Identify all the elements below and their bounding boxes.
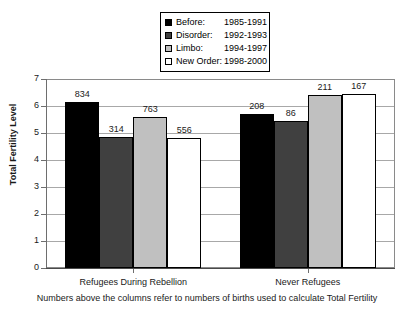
y-axis-line (46, 79, 47, 269)
x-axis-tick (133, 269, 134, 273)
bar (99, 137, 133, 268)
legend: Before:1985-1991Disorder:1992-1993Limbo:… (160, 12, 270, 72)
legend-item: New Order:1998-2000 (165, 55, 265, 68)
bar (167, 138, 201, 268)
legend-item-years: 1985-1991 (224, 18, 267, 27)
bar (274, 121, 308, 268)
bar (133, 117, 167, 268)
legend-item: Disorder:1992-1993 (165, 29, 265, 42)
y-axis-tick (41, 187, 46, 188)
y-axis-tick-label-wrap: 5 (0, 128, 39, 137)
bar (240, 114, 274, 268)
x-axis-line (46, 268, 395, 269)
y-axis-tick-label: 0 (3, 263, 39, 272)
y-axis-tick-label-wrap: 4 (0, 155, 39, 164)
chart-caption: Numbers above the columns refer to numbe… (0, 293, 414, 304)
bar-value-label: 167 (334, 82, 384, 91)
bar-value-label: 763 (125, 105, 175, 114)
bar (342, 94, 376, 268)
y-axis-tick (41, 133, 46, 134)
y-axis-tick-label-wrap: 2 (0, 209, 39, 218)
y-axis-tick-label-wrap: 1 (0, 236, 39, 245)
legend-swatch (165, 32, 172, 39)
y-axis-tick-label: 1 (3, 236, 39, 245)
legend-item-label: Disorder: (176, 31, 224, 40)
legend-swatch (165, 19, 172, 26)
y-axis-tick-label-wrap: 0 (0, 263, 39, 272)
legend-swatch (165, 58, 172, 65)
bar-chart: 01234567 Total Fertility Level 834314763… (0, 0, 414, 311)
legend-item-label: Before: (176, 18, 224, 27)
legend-item: Limbo:1994-1997 (165, 42, 265, 55)
legend-swatch (165, 45, 172, 52)
x-axis-category-label: Never Refugees (218, 277, 398, 288)
y-axis-tick-label-wrap: 3 (0, 182, 39, 191)
legend-item-years: 1994-1997 (224, 44, 267, 53)
y-axis-tick (41, 214, 46, 215)
y-axis-tick (41, 241, 46, 242)
bar-value-label: 834 (57, 90, 107, 99)
bar-value-label: 556 (159, 126, 209, 135)
y-axis-tick (41, 160, 46, 161)
x-axis-tick (308, 269, 309, 273)
y-axis-title: Total Fertility Level (9, 70, 18, 220)
x-axis-category-label: Refugees During Rebellion (43, 277, 223, 288)
legend-item-label: New Order: (176, 57, 224, 66)
legend-item-years: 1992-1993 (224, 31, 267, 40)
bar (308, 95, 342, 268)
y-axis-tick (41, 106, 46, 107)
y-axis-tick-label-wrap: 7 (0, 74, 39, 83)
legend-item-years: 1998-2000 (224, 57, 267, 66)
y-axis-tick (41, 79, 46, 80)
legend-item: Before:1985-1991 (165, 16, 265, 29)
legend-item-label: Limbo: (176, 44, 224, 53)
y-axis-tick-label-wrap: 6 (0, 101, 39, 110)
